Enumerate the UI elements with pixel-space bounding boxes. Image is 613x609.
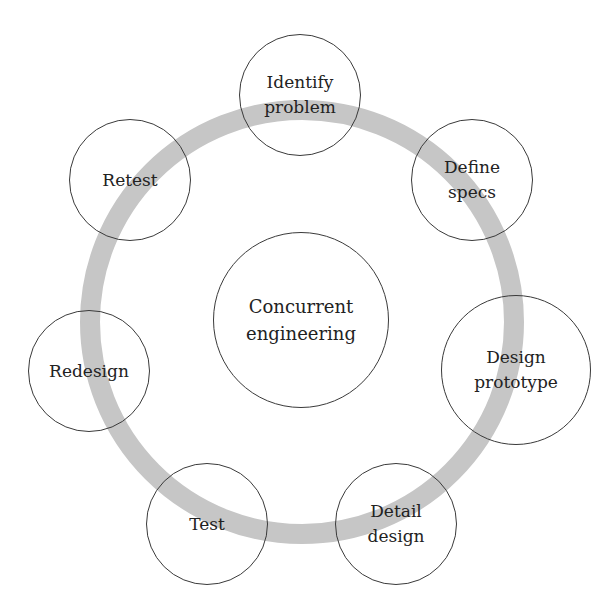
node-design-prototype: Design prototype (441, 295, 591, 445)
concurrent-engineering-cycle-diagram: Concurrent engineering Identify problem … (0, 0, 613, 609)
node-label: Redesign (49, 359, 129, 384)
node-label: Design prototype (474, 345, 558, 395)
node-define-specs: Define specs (411, 119, 533, 241)
node-label: Test (189, 512, 225, 537)
node-label: Retest (102, 168, 157, 193)
center-label: Concurrent engineering (246, 293, 356, 347)
node-retest: Retest (69, 119, 191, 241)
node-identify-problem: Identify problem (239, 34, 361, 156)
node-test: Test (146, 463, 268, 585)
node-label: Detail design (368, 499, 425, 549)
node-redesign: Redesign (28, 310, 150, 432)
node-detail-design: Detail design (335, 463, 457, 585)
node-label: Identify problem (264, 70, 336, 120)
node-label: Define specs (444, 155, 500, 205)
center-node-concurrent-engineering: Concurrent engineering (213, 232, 389, 408)
